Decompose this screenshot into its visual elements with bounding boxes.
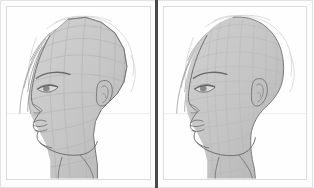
mesh-panel-left[interactable] xyxy=(0,0,157,188)
screenshot-root: Head Mesh Comparison xyxy=(0,0,313,188)
head-mesh-render-right xyxy=(164,7,307,179)
ear xyxy=(96,80,112,106)
head-mesh-render-left xyxy=(7,7,150,179)
mesh-panel-right[interactable] xyxy=(157,0,314,188)
low-poly-mesh-viewport[interactable] xyxy=(6,6,151,180)
panel-divider xyxy=(155,0,158,188)
smooth-mesh-viewport[interactable] xyxy=(163,6,308,180)
